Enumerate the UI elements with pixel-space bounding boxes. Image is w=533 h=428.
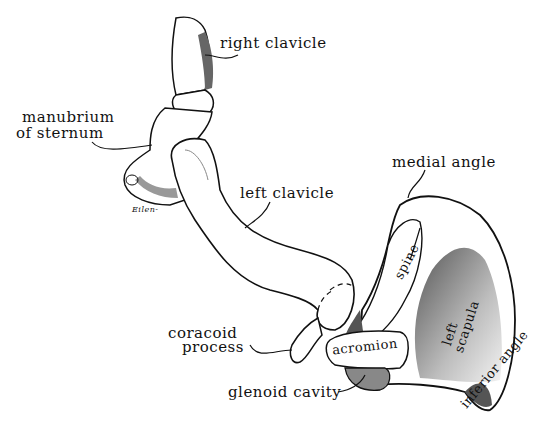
glenoid-cavity-bone [345, 368, 390, 390]
label-medial-angle: medial angle [392, 155, 496, 170]
leader-medial-angle [408, 170, 425, 198]
anatomy-illustration: right clavicle manubrium of sternum left… [0, 0, 533, 428]
label-manubrium-line1: manubrium [22, 110, 114, 125]
leader-manubrium [92, 142, 152, 149]
coracoid-process-bone [290, 318, 322, 363]
label-coracoid-line2: process [182, 340, 244, 355]
label-right-clavicle: right clavicle [220, 36, 327, 51]
artist-signature: Eilen- [132, 206, 159, 214]
leader-coracoid [250, 345, 292, 353]
label-manubrium-line2: of sternum [16, 126, 104, 141]
label-glenoid-cavity: glenoid cavity [228, 385, 341, 400]
leader-left-clavicle [245, 202, 270, 228]
bone-drawing [0, 0, 533, 428]
label-left-clavicle: left clavicle [240, 186, 334, 201]
left-clavicle-bone [171, 139, 354, 330]
right-clavicle-bone [172, 17, 213, 114]
